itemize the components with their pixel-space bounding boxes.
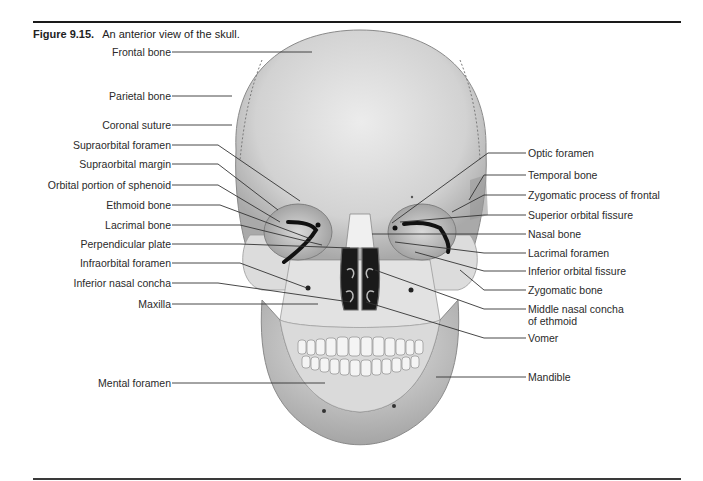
label-optic-foramen: Optic foramen: [528, 147, 594, 159]
label-infraorbital-foramen: Infraorbital foramen: [80, 257, 171, 269]
label-zygomatic-bone: Zygomatic bone: [528, 284, 603, 296]
label-inferior-orbital-fissure: Inferior orbital fissure: [528, 265, 626, 277]
label-middle-nasal-concha-line2: of ethmoid: [528, 315, 577, 327]
label-lacrimal-foramen: Lacrimal foramen: [528, 247, 609, 259]
label-middle-nasal-concha: Middle nasal concha: [528, 303, 624, 315]
label-inferior-nasal-concha: Inferior nasal concha: [74, 277, 171, 289]
label-vomer: Vomer: [528, 332, 558, 344]
label-coronal-suture: Coronal suture: [102, 119, 171, 131]
label-lacrimal-bone: Lacrimal bone: [105, 219, 171, 231]
label-perpendicular-plate: Perpendicular plate: [81, 238, 171, 250]
label-orbital-portion-sphenoid: Orbital portion of sphenoid: [48, 179, 171, 191]
label-nasal-bone: Nasal bone: [528, 228, 581, 240]
label-supraorbital-foramen: Supraorbital foramen: [73, 139, 171, 151]
label-ethmoid-bone: Ethmoid bone: [106, 199, 171, 211]
label-mandible: Mandible: [528, 371, 571, 383]
label-superior-orbital-fissure: Superior orbital fissure: [528, 209, 633, 221]
label-temporal-bone: Temporal bone: [528, 169, 597, 181]
label-mental-foramen: Mental foramen: [98, 377, 171, 389]
label-zygomatic-process-frontal: Zygomatic process of frontal: [528, 189, 660, 201]
label-frontal-bone: Frontal bone: [112, 46, 171, 58]
bottom-rule: [33, 478, 681, 480]
skull-anterior-diagram: Frontal bone Parietal bone Coronal sutur…: [0, 0, 703, 481]
label-parietal-bone: Parietal bone: [109, 90, 171, 102]
label-maxilla: Maxilla: [138, 298, 171, 310]
label-supraorbital-margin: Supraorbital margin: [79, 158, 171, 170]
